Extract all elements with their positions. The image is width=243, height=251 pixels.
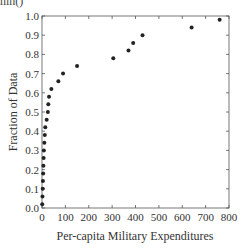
data-point [42, 141, 46, 145]
data-point [43, 133, 47, 137]
y-tick-label: 0.4 [25, 125, 39, 137]
y-axis-ticks: 0.00.10.20.30.40.50.60.70.80.91.0 [25, 10, 229, 214]
x-tick-label: 800 [221, 211, 238, 223]
x-tick-label: 300 [104, 211, 121, 223]
y-tick-label: 1.0 [25, 10, 39, 22]
data-point [75, 64, 79, 68]
x-tick-label: 100 [57, 211, 74, 223]
x-tick-label: 600 [174, 211, 191, 223]
y-tick-label: 0.1 [25, 183, 39, 195]
data-point [41, 187, 45, 191]
y-tick-label: 0.9 [25, 29, 39, 41]
x-axis-label: Per-capita Military Expenditures [56, 229, 213, 243]
data-point [40, 202, 44, 206]
data-point [190, 26, 194, 30]
y-axis-label: Fraction of Data [6, 72, 20, 151]
y-tick-label: 0.7 [25, 68, 39, 80]
data-point [41, 179, 45, 183]
x-axis-ticks: 0100200300400500600700800 [39, 16, 238, 223]
data-point [56, 79, 60, 83]
y-tick-label: 0.0 [25, 202, 39, 214]
data-point [111, 56, 115, 60]
plot-frame [42, 16, 229, 208]
data-point [141, 33, 145, 37]
data-point [61, 72, 65, 76]
y-tick-label: 0.2 [25, 164, 39, 176]
data-point [43, 125, 47, 129]
data-point [49, 87, 53, 91]
data-point [45, 118, 49, 122]
data-point [42, 156, 46, 160]
data-point [126, 49, 130, 53]
scatter-chart: 0.00.10.20.30.40.50.60.70.80.91.0 010020… [0, 0, 243, 251]
x-tick-label: 0 [39, 211, 45, 223]
data-point [47, 95, 51, 99]
data-point [41, 171, 45, 175]
plot-border [42, 16, 229, 208]
data-point [41, 164, 45, 168]
y-tick-label: 0.3 [25, 144, 39, 156]
y-tick-label: 0.8 [25, 48, 39, 60]
data-point [46, 110, 50, 114]
data-point [40, 194, 44, 198]
y-tick-label: 0.6 [25, 87, 39, 99]
data-point [42, 148, 46, 152]
data-point [218, 18, 222, 22]
x-tick-label: 400 [127, 211, 144, 223]
x-tick-label: 500 [151, 211, 168, 223]
data-points [40, 18, 221, 206]
data-point [46, 102, 50, 106]
data-point [131, 41, 135, 45]
x-tick-label: 200 [81, 211, 98, 223]
x-tick-label: 700 [197, 211, 214, 223]
y-tick-label: 0.5 [25, 106, 39, 118]
